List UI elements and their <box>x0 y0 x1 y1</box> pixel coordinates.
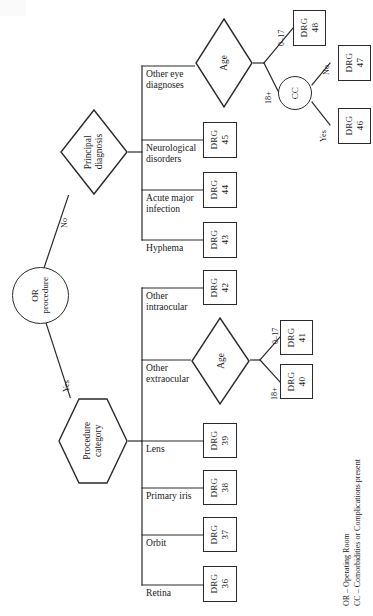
drg-38-label: DRG 38 <box>209 478 230 498</box>
node-drg-48[interactable]: DRG 48 <box>293 10 326 46</box>
branch-label-other-intraocular[interactable]: Other intraocular <box>146 290 188 313</box>
branch-label-other-extraocular[interactable]: Other extraocular <box>146 362 189 385</box>
branch-label-acute-major-infection[interactable]: Acute major infection <box>146 192 194 215</box>
or-procedure-line1: OR <box>30 277 40 314</box>
node-age-top[interactable]: Age <box>195 18 253 108</box>
drg-37-label: DRG 37 <box>209 525 230 545</box>
node-principal-diagnosis[interactable]: Principal diagnosis <box>60 109 128 195</box>
node-drg-42[interactable]: DRG 42 <box>203 270 237 305</box>
node-drg-47[interactable]: DRG 47 <box>338 45 371 81</box>
branch-label-neurological-disorders[interactable]: Neurological disorders <box>146 142 196 165</box>
drg-47-label: DRG 47 <box>344 53 365 73</box>
drg-46-label: DRG 46 <box>344 116 365 136</box>
legend-line-cc: CC – Comorbidities or Complications pres… <box>352 459 363 606</box>
legend: OR – Operating Room CC – Comorbidities o… <box>341 459 363 606</box>
node-age-bottom[interactable]: Age <box>191 317 250 405</box>
node-or-procedure[interactable]: OR procedure <box>12 267 69 324</box>
edge-label-or-yes: Yes <box>62 380 71 392</box>
edge-label-or-no: No <box>60 218 69 228</box>
drg-39-label: DRG 39 <box>209 431 230 451</box>
node-drg-37[interactable]: DRG 37 <box>203 517 237 552</box>
branch-label-lens[interactable]: Lens <box>146 443 165 454</box>
or-procedure-line2: procedure <box>40 277 50 314</box>
node-drg-39[interactable]: DRG 39 <box>203 423 237 458</box>
drg-48-label: DRG 48 <box>299 18 320 38</box>
drg-44-label: DRG 44 <box>209 180 230 200</box>
legend-line-or: OR – Operating Room <box>341 459 352 606</box>
node-drg-40[interactable]: DRG 40 <box>280 364 313 399</box>
branch-label-primary-iris[interactable]: Primary iris <box>146 490 192 501</box>
node-cc[interactable]: CC <box>278 76 312 110</box>
node-drg-41[interactable]: DRG 41 <box>280 320 313 355</box>
edge-label-age-top-young: 0–17 <box>277 30 286 46</box>
branch-label-other-eye-diagnoses[interactable]: Other eye diagnoses <box>146 68 184 91</box>
drg-40-label: DRG 40 <box>286 372 307 392</box>
branch-label-retina[interactable]: Retina <box>146 587 171 598</box>
node-drg-45[interactable]: DRG 45 <box>203 122 237 158</box>
drg-36-label: DRG 36 <box>209 574 230 594</box>
drg-43-label: DRG 43 <box>209 230 230 250</box>
cc-text: CC <box>290 87 300 99</box>
drg-41-label: DRG 41 <box>286 328 307 348</box>
cc-label: CC <box>290 87 300 99</box>
drg-45-label: DRG 45 <box>209 130 230 150</box>
diagram-canvas: OR procedure No Yes Principal diagnosis … <box>0 0 373 616</box>
node-procedure-category[interactable]: Procedure category <box>58 398 128 484</box>
node-drg-46[interactable]: DRG 46 <box>338 108 371 144</box>
branch-label-hyphema[interactable]: Hyphema <box>146 242 183 253</box>
edge-label-age-bottom-young: 0–17 <box>271 328 280 344</box>
edge-label-cc-no: No <box>322 65 331 75</box>
node-drg-43[interactable]: DRG 43 <box>203 222 237 258</box>
edge-label-cc-yes: Yes <box>319 130 328 142</box>
node-drg-38[interactable]: DRG 38 <box>203 470 237 505</box>
edge-label-age-bottom-adult: 18+ <box>270 387 279 400</box>
edge-label-age-top-adult: 18+ <box>264 91 273 104</box>
node-drg-44[interactable]: DRG 44 <box>203 172 237 208</box>
or-procedure-label: OR procedure <box>30 277 51 314</box>
node-drg-36[interactable]: DRG 36 <box>203 566 237 602</box>
branch-label-orbit[interactable]: Orbit <box>146 537 166 548</box>
drg-42-label: DRG 42 <box>209 278 230 298</box>
